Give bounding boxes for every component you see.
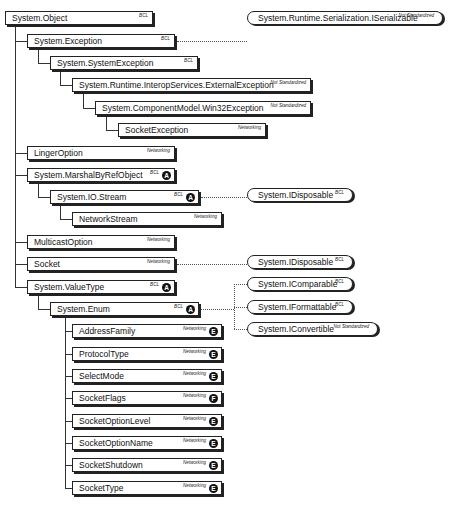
class-box-external-exception[interactable]: System.Runtime.InteropServices.ExternalE… [72,78,311,92]
inheritance-line [60,204,61,220]
class-box-exception[interactable]: System.ExceptionBCL [27,34,175,48]
class-box-socket-flags[interactable]: SocketFlagsNetworkingF [72,391,222,405]
library-tag: BCL [335,257,344,263]
interface-box-iconvertible[interactable]: System.IConvertibleNot Standardized [247,322,378,336]
enum-badge-icon: E [209,484,218,493]
class-box-multicast-option[interactable]: MulticastOptionNetworking [27,235,175,249]
type-name: AddressFamily [79,325,135,338]
type-name: System.Exception [34,35,102,48]
library-tag: BCL [335,302,344,308]
library-tag: Networking [183,371,206,377]
class-box-socket-option-level[interactable]: SocketOptionLevelNetworkingE [72,414,222,428]
class-box-enum[interactable]: System.EnumBCLA [50,302,199,316]
interface-box-iformattable[interactable]: System.IFormattableBCL [247,300,353,314]
abstract-badge-icon: A [162,283,171,292]
implements-link [201,309,234,310]
type-name: ProtocolType [79,348,129,361]
class-box-object[interactable]: System.ObjectBCL [5,11,153,25]
class-box-socket-type[interactable]: SocketTypeNetworkingE [72,481,222,495]
type-name: SocketFlags [79,392,126,405]
inheritance-branch [15,287,27,288]
type-name: System.IO.Stream [57,191,126,204]
class-box-system-exception[interactable]: System.SystemExceptionBCL [50,56,198,70]
library-tag: BCL [335,190,344,196]
implements-branch [234,307,247,308]
inheritance-branch [106,130,118,131]
type-name: NetworkStream [79,213,138,226]
inheritance-branch [38,309,50,310]
library-tag: BCL [139,13,148,19]
type-name: Socket [34,258,60,271]
type-name: System.IDisposable [258,256,333,269]
enum-badge-icon: E [209,350,218,359]
type-name: System.ComponentModel.Win32Exception [102,102,264,115]
enum-badge-icon: E [209,461,218,470]
type-name: System.Enum [57,303,110,316]
type-name: System.Runtime.Serialization.ISerializab… [258,12,418,25]
library-tag: Networking [183,416,206,422]
type-name: LingerOption [34,147,83,160]
library-tag: BCL [150,170,159,176]
library-tag: Networking [147,148,170,154]
library-tag: Networking [183,460,206,466]
inheritance-branch [15,153,27,154]
enum-badge-icon: E [209,327,218,336]
inheritance-branch [60,85,72,86]
library-tag: Networking [183,483,206,489]
class-box-network-stream[interactable]: NetworkStreamNetworking [72,212,222,226]
type-name: SocketType [79,482,123,495]
type-name: SocketShutdown [79,459,143,472]
type-name: System.ValueType [34,281,104,294]
inheritance-branch [15,175,27,176]
library-tag: BCL [161,36,170,42]
type-name: System.IFormattable [258,301,336,314]
library-tag: BCL [174,304,183,310]
type-name: System.Runtime.InteropServices.ExternalE… [79,79,274,92]
inheritance-line [106,115,107,131]
interface-box-idisposable-socket[interactable]: System.IDisposableBCL [247,255,353,269]
inheritance-line [38,48,39,64]
implements-link [201,197,247,198]
library-tag: Networking [194,214,217,220]
class-box-value-type[interactable]: System.ValueTypeBCLA [27,280,175,294]
class-box-socket[interactable]: SocketNetworking [27,257,175,271]
abstract-badge-icon: A [186,193,195,202]
type-name: System.SystemException [57,57,153,70]
interface-box-idisposable-stream[interactable]: System.IDisposableBCL [247,188,353,202]
class-box-io-stream[interactable]: System.IO.StreamBCLA [50,190,199,204]
class-box-address-family[interactable]: AddressFamilyNetworkingE [72,324,222,338]
library-tag: Not Standardized [271,80,307,86]
inheritance-line [38,294,39,310]
library-tag: Not Standardized [334,324,370,330]
type-name: SocketException [125,124,188,137]
implements-branch [234,329,247,330]
class-box-socket-option-name[interactable]: SocketOptionNameNetworkingE [72,436,222,450]
class-box-marshal-by-ref-object[interactable]: System.MarshalByRefObjectBCLA [27,168,175,182]
enum-badge-icon: E [209,417,218,426]
type-name: System.IComparable [258,278,337,291]
class-box-linger-option[interactable]: LingerOptionNetworking [27,146,175,160]
interface-box-iserializable[interactable]: System.Runtime.Serialization.ISerializab… [247,11,443,25]
library-tag: Networking [238,125,261,131]
implements-branch [234,284,247,285]
class-box-socket-shutdown[interactable]: SocketShutdownNetworkingE [72,458,222,472]
class-box-win32-exception[interactable]: System.ComponentModel.Win32ExceptionNot … [95,101,311,115]
class-box-protocol-type[interactable]: ProtocolTypeNetworkingE [72,347,222,361]
library-tag: Networking [183,349,206,355]
enum-badge-icon: E [209,372,218,381]
library-tag: BCL [174,192,183,198]
type-name: SelectMode [79,370,124,383]
inheritance-branch [38,197,50,198]
type-name: System.MarshalByRefObject [34,169,143,182]
inheritance-line [65,316,66,489]
inheritance-branch [15,41,27,42]
inheritance-line [15,25,16,288]
abstract-badge-icon: A [186,305,195,314]
implements-link [177,41,247,42]
inheritance-line [38,182,39,198]
class-box-select-mode[interactable]: SelectModeNetworkingE [72,369,222,383]
library-tag: BCL [335,279,344,285]
type-name: System.IConvertible [258,323,334,336]
interface-box-icomparable[interactable]: System.IComparableBCL [247,277,353,291]
class-box-socket-exception[interactable]: SocketExceptionNetworking [118,123,266,137]
